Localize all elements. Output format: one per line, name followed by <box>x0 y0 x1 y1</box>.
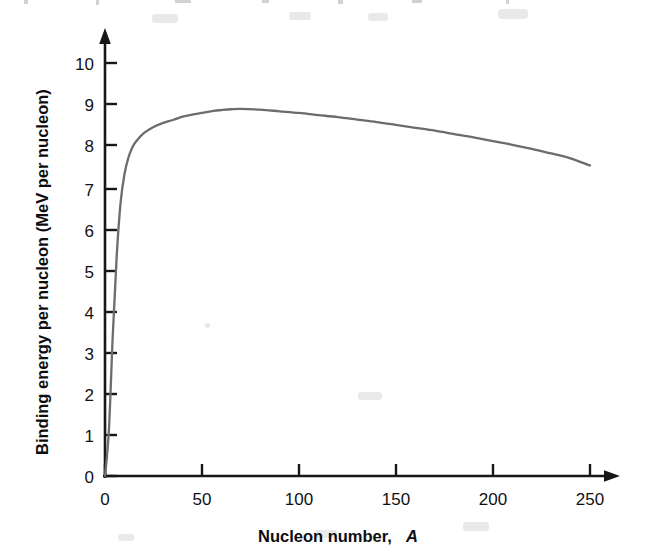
y-tick-label-9: 9 <box>85 96 94 115</box>
y-tick-label-7: 7 <box>85 181 94 200</box>
x-tick-label-200: 200 <box>479 490 507 509</box>
y-axis-arrow-icon <box>99 28 111 44</box>
y-tick-label-4: 4 <box>85 304 94 323</box>
y-tick-label-6: 6 <box>85 222 94 241</box>
y-tick-label-1: 1 <box>85 427 94 446</box>
y-axis-title: Binding energy per nucleon (MeV per nucl… <box>33 89 51 455</box>
y-tick-label-3: 3 <box>85 345 94 364</box>
binding-energy-curve <box>105 109 590 476</box>
x-tick-label-0: 0 <box>100 490 109 509</box>
y-tick-label-0: 0 <box>85 468 94 487</box>
x-axis-title: Nucleon number, A <box>258 527 418 545</box>
y-tick-label-5: 5 <box>85 263 94 282</box>
y-tick-label-2: 2 <box>85 386 94 405</box>
x-axis-title-main: Nucleon number, <box>258 527 392 545</box>
x-tick-label-250: 250 <box>576 490 604 509</box>
x-axis-arrow-icon <box>604 470 620 482</box>
x-tick-label-150: 150 <box>382 490 410 509</box>
y-tick-label-8: 8 <box>85 137 94 156</box>
y-tick-group: 0 1 2 3 4 5 6 7 8 9 10 <box>75 55 117 487</box>
x-tick-group: 0 50 100 150 200 250 <box>100 464 604 509</box>
y-tick-label-10: 10 <box>75 55 94 74</box>
x-axis <box>103 470 620 482</box>
scan-artifacts <box>24 0 528 541</box>
x-tick-label-50: 50 <box>193 490 212 509</box>
x-tick-label-100: 100 <box>285 490 313 509</box>
chart-figure: 0 1 2 3 4 5 6 7 8 9 10 0 50 100 150 200 … <box>0 0 650 560</box>
x-axis-title-symbol: A <box>405 527 418 545</box>
binding-energy-curve-chart: 0 1 2 3 4 5 6 7 8 9 10 0 50 100 150 200 … <box>0 0 650 560</box>
